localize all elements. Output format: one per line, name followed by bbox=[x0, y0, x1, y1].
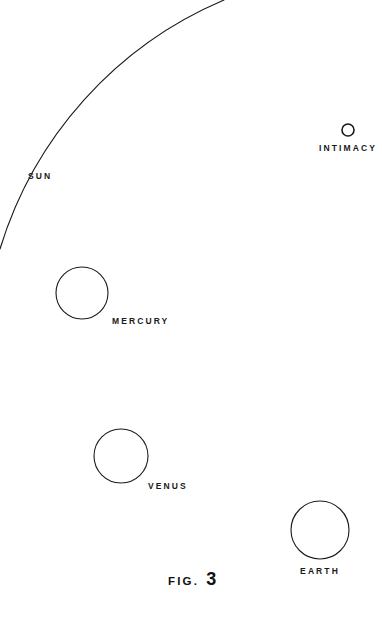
sun-label: SUN bbox=[28, 172, 52, 181]
figure-caption-number: 3 bbox=[206, 569, 216, 590]
figure-caption: FIG. 3 bbox=[168, 569, 216, 590]
figure-caption-word: FIG. bbox=[168, 575, 199, 587]
figure-drawing bbox=[0, 0, 382, 624]
figure-canvas-root: SUN INTIMACY MERCURY VENUS EARTH FIG. 3 bbox=[0, 0, 382, 624]
venus-label: VENUS bbox=[148, 482, 188, 491]
earth-label: EARTH bbox=[300, 567, 340, 576]
mercury-label: MERCURY bbox=[112, 317, 169, 326]
intimacy-label: INTIMACY bbox=[319, 144, 377, 153]
figure-background bbox=[0, 0, 382, 624]
